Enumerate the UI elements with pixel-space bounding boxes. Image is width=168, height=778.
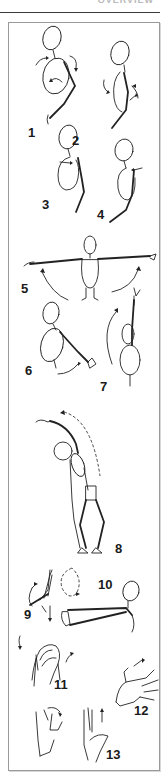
exercise-number-13: 13 (106, 748, 120, 761)
exercise-number-9: 9 (24, 608, 31, 621)
figure-1 (36, 24, 78, 124)
exercise-number-1: 1 (28, 126, 35, 139)
figure-7 (107, 288, 140, 386)
figure-5 (24, 236, 156, 300)
figure-2 (104, 39, 139, 128)
figure-4 (110, 138, 142, 222)
exercise-number-11: 11 (54, 678, 68, 691)
exercise-number-4: 4 (97, 208, 104, 221)
exercise-illustrations (0, 0, 168, 778)
exercise-number-2: 2 (72, 134, 79, 147)
figure-13 (36, 708, 108, 763)
figure-8 (36, 410, 104, 553)
figure-9 (29, 568, 80, 622)
figure-6 (37, 301, 96, 374)
exercise-number-10: 10 (98, 578, 112, 591)
exercise-number-5: 5 (21, 282, 28, 295)
exercise-number-8: 8 (115, 542, 122, 555)
figure-3 (57, 124, 84, 212)
exercise-number-6: 6 (25, 364, 32, 377)
exercise-number-3: 3 (42, 198, 49, 211)
exercise-number-7: 7 (100, 380, 107, 393)
exercise-number-12: 12 (134, 704, 148, 717)
figure-12 (116, 658, 158, 706)
